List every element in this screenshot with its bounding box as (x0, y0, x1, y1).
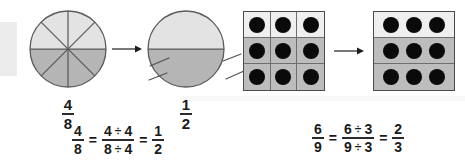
arrow-right-icon-left (112, 44, 142, 54)
division-denominator: 8 ÷ 4 (102, 141, 134, 156)
arrow-right-svg (334, 46, 364, 56)
dot-icon (406, 43, 422, 59)
dot-icon (275, 17, 291, 33)
equation-result-fraction: 2 3 (392, 122, 404, 154)
dot-icon (303, 43, 319, 59)
dot-icon (275, 69, 291, 85)
fraction-numerator: 1 (180, 97, 192, 113)
equation-division-fraction: 4 ÷ 4 8 ÷ 4 (102, 124, 134, 156)
dot-icon (249, 69, 265, 85)
scan-artifact-left (0, 22, 17, 76)
divide-icon: ÷ (355, 123, 362, 135)
equation-left-fraction: 4 8 (72, 124, 84, 156)
divide-icon: ÷ (355, 141, 362, 153)
numerator-divisor: 3 (364, 122, 372, 136)
equation-left-fraction: 6 9 (312, 122, 324, 154)
grid-cell-shaded (271, 38, 298, 64)
division-denominator: 9 ÷ 3 (342, 139, 374, 154)
dot-icon (303, 69, 319, 85)
grid-cell (244, 12, 271, 38)
circle-eighths-model (29, 10, 107, 88)
equals-sign-1: = (88, 132, 98, 148)
divide-icon: ÷ (115, 125, 122, 137)
fraction-numerator: 4 (62, 97, 74, 113)
fraction-numerator: 6 (312, 122, 324, 137)
grid-nine-cells-model (243, 11, 325, 91)
grid-cell-shaded (271, 64, 298, 90)
grid-cell-shaded (297, 64, 324, 90)
arrow-right-icon-right (334, 46, 364, 56)
equals-sign-2: = (138, 132, 148, 148)
fraction-denominator: 8 (72, 141, 84, 156)
equals-sign-1: = (328, 130, 338, 146)
grid-cell-shaded (244, 64, 271, 90)
denominator-divisor: 3 (364, 140, 372, 154)
grid-three-bands-model (373, 11, 455, 91)
fraction-numerator: 2 (392, 122, 404, 137)
arrow-right-svg (112, 44, 142, 54)
denominator-value: 9 (344, 140, 352, 154)
numerator-value: 4 (104, 124, 112, 138)
dot-icon (429, 69, 445, 85)
division-numerator: 4 ÷ 4 (102, 124, 134, 139)
erased-line-fragments (140, 40, 250, 95)
grid-cell (297, 12, 324, 38)
dot-icon (275, 43, 291, 59)
equation-right: 6 9 = 6 ÷ 3 9 ÷ 3 (312, 122, 404, 154)
fraction-denominator: 2 (152, 141, 164, 156)
fraction-denominator: 9 (312, 139, 324, 154)
division-numerator: 6 ÷ 3 (342, 122, 374, 137)
dot-icon (249, 17, 265, 33)
dot-icon (383, 69, 399, 85)
grid-cell-shaded (244, 38, 271, 64)
dot-icon (429, 43, 445, 59)
equation-result-fraction: 1 2 (152, 124, 164, 156)
fraction-numerator: 4 (72, 124, 84, 139)
grid-cell-shaded (297, 38, 324, 64)
equation-left: 4 8 = 4 ÷ 4 8 ÷ 4 (72, 124, 164, 156)
dot-icon (429, 17, 445, 33)
dot-icon (383, 17, 399, 33)
figure-canvas: 4 8 1 (0, 0, 465, 162)
dot-icon (303, 17, 319, 33)
grid-band-shaded (374, 38, 454, 64)
denominator-value: 8 (104, 142, 112, 156)
fraction-numerator: 1 (152, 124, 164, 139)
equation-division-fraction: 6 ÷ 3 9 ÷ 3 (342, 122, 374, 154)
grid-cell (271, 12, 298, 38)
dot-icon (406, 69, 422, 85)
erased-line-fragments-svg (140, 40, 250, 95)
dot-icon (383, 43, 399, 59)
fraction-denominator: 2 (180, 115, 192, 131)
dot-icon (406, 17, 422, 33)
fraction-denominator: 3 (392, 139, 404, 154)
numerator-divisor: 4 (124, 124, 132, 138)
denominator-divisor: 4 (124, 142, 132, 156)
numerator-value: 6 (344, 122, 352, 136)
grid-band-shaded (374, 64, 454, 90)
dot-icon (249, 43, 265, 59)
circle-eighths-svg (29, 10, 107, 88)
equals-sign-2: = (378, 130, 388, 146)
grid-band (374, 12, 454, 38)
divide-icon: ÷ (115, 143, 122, 155)
